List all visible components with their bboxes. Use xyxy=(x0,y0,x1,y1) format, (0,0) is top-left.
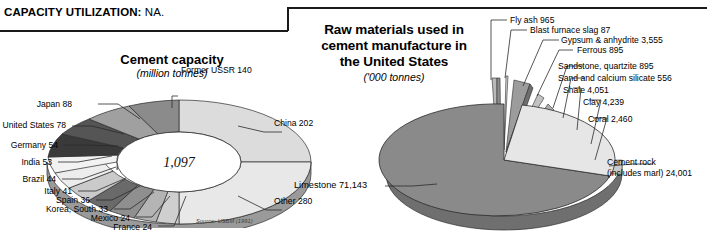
left-label-former-ussr: Former USSR 140 xyxy=(181,65,252,75)
right-label-blast-furnace-slag: Blast furnace slag 87 xyxy=(530,25,610,35)
left-label-other: Other 280 xyxy=(274,196,312,206)
right-label-gypsum-anhydrite: Gypsum & anhydrite 3,555 xyxy=(561,35,663,45)
right-label-sandstone-quartzite: Sandstone, quartzite 895 xyxy=(558,61,654,71)
header-divider-rule xyxy=(0,30,288,32)
right-chart-title-line1: Raw materials used in xyxy=(296,22,492,38)
right-label-ferrous: Ferrous 895 xyxy=(577,45,623,55)
right-panel-top-rule xyxy=(287,7,707,9)
right-label-limestone: Limestone 71,143 xyxy=(294,180,367,191)
raw-materials-pie-chart xyxy=(378,72,628,232)
right-label-sand-calcium-silicate: Sand and calcium silicate 556 xyxy=(558,73,672,83)
left-chart-source-note: Source: USBM (1991) xyxy=(196,218,253,224)
left-label-china: China 202 xyxy=(274,118,313,128)
right-label-cement-rock-line2: (includes marl) 24,001 xyxy=(607,168,692,179)
left-label-united-states: United States 78 xyxy=(0,120,66,130)
right-label-clay: Clay 4,239 xyxy=(583,97,624,107)
right-chart-title-line2: cement manufacture in xyxy=(296,38,492,54)
right-label-shale: Shale 4,051 xyxy=(563,85,609,95)
capacity-utilization-value: NA. xyxy=(145,6,164,18)
right-label-fly-ash: Fly ash 965 xyxy=(510,15,554,25)
donut-center-total: 1,097 xyxy=(163,155,196,170)
capacity-utilization-header: CAPACITY UTILIZATION: NA. xyxy=(4,6,280,26)
left-label-japan: Japan 88 xyxy=(6,99,72,109)
page-root: CAPACITY UTILIZATION: NA. Cement capacit… xyxy=(0,0,707,236)
left-label-india: India 53 xyxy=(0,157,52,167)
right-label-coral: Coral 2,460 xyxy=(588,114,632,124)
right-chart-title-line3: the United States xyxy=(296,54,492,70)
capacity-utilization-label: CAPACITY UTILIZATION: xyxy=(4,6,142,18)
panel-divider-riser xyxy=(287,8,289,31)
left-label-france: France 24 xyxy=(0,222,152,232)
pie-main-slices xyxy=(379,104,615,216)
right-label-cement-rock-line1: Cement rock xyxy=(607,157,656,168)
left-label-brazil: Brazil 44 xyxy=(0,174,56,184)
left-label-germany: Germany 54 xyxy=(0,140,58,150)
